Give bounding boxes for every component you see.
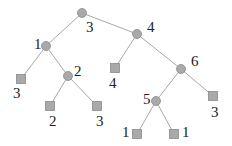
node-label: 3 bbox=[86, 19, 94, 35]
node-label: 3 bbox=[211, 104, 219, 120]
tree-edge bbox=[46, 13, 82, 46]
internal-node-circle-icon bbox=[64, 72, 73, 81]
tree-diagram: 3132234465311 bbox=[0, 0, 232, 146]
internal-node-circle-icon bbox=[42, 42, 51, 51]
leaf-node-square-icon bbox=[111, 64, 120, 73]
node-label: 6 bbox=[191, 53, 199, 69]
internal-node-circle-icon bbox=[78, 9, 87, 18]
leaf-node-square-icon bbox=[17, 75, 26, 84]
tree-edge bbox=[137, 34, 181, 69]
node-label: 4 bbox=[109, 75, 117, 91]
node-label: 1 bbox=[122, 124, 130, 140]
node-label: 3 bbox=[13, 85, 21, 101]
node-label: 2 bbox=[74, 63, 82, 79]
tree-edge bbox=[46, 46, 68, 76]
node-label: 1 bbox=[34, 36, 42, 52]
leaf-node-square-icon bbox=[209, 92, 218, 101]
node-label: 4 bbox=[147, 19, 155, 35]
node-label: 2 bbox=[49, 113, 57, 129]
tree-edge bbox=[115, 34, 137, 68]
node-label: 3 bbox=[96, 113, 104, 129]
internal-node-circle-icon bbox=[133, 30, 142, 39]
internal-node-circle-icon bbox=[152, 97, 161, 106]
tree-edge bbox=[156, 69, 181, 101]
leaf-node-square-icon bbox=[46, 102, 55, 111]
tree-nodes bbox=[17, 9, 218, 139]
internal-node-circle-icon bbox=[177, 65, 186, 74]
tree-edge bbox=[156, 101, 174, 134]
node-label: 5 bbox=[143, 91, 151, 107]
tree-labels: 3132234465311 bbox=[13, 19, 219, 140]
leaf-node-square-icon bbox=[170, 130, 179, 139]
leaf-node-square-icon bbox=[93, 102, 102, 111]
node-label: 1 bbox=[182, 124, 190, 140]
leaf-node-square-icon bbox=[133, 130, 142, 139]
